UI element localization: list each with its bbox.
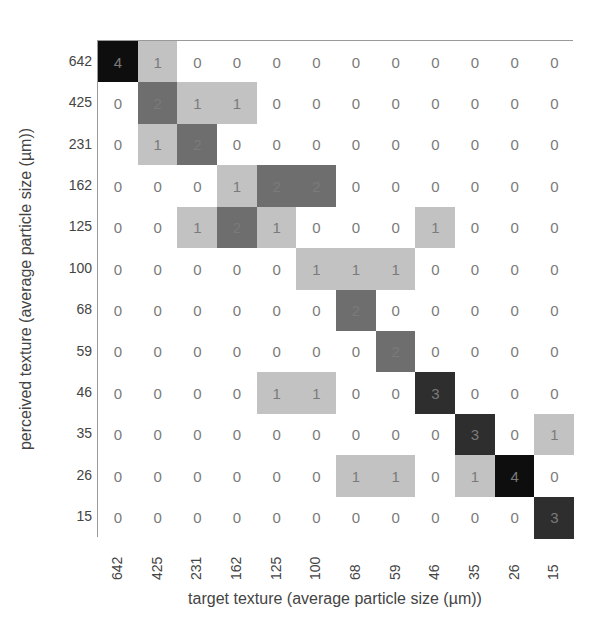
heatmap-cell: 0 bbox=[217, 41, 257, 83]
heatmap-cell: 0 bbox=[534, 248, 574, 290]
heatmap-cell: 0 bbox=[296, 82, 336, 124]
heatmap-cell: 0 bbox=[336, 331, 376, 373]
heatmap-cell: 0 bbox=[534, 455, 574, 497]
heatmap-cell: 0 bbox=[336, 414, 376, 456]
heatmap-cell: 0 bbox=[257, 331, 297, 373]
heatmap-cell: 0 bbox=[98, 165, 138, 207]
heatmap-cell: 0 bbox=[138, 455, 178, 497]
heatmap-cell: 0 bbox=[415, 82, 455, 124]
heatmap-cell: 0 bbox=[257, 248, 297, 290]
heatmap-cell: 0 bbox=[138, 414, 178, 456]
heatmap-cell: 0 bbox=[415, 165, 455, 207]
heatmap-cell: 0 bbox=[336, 165, 376, 207]
heatmap-cell: 0 bbox=[98, 124, 138, 166]
heatmap-cell: 0 bbox=[257, 124, 297, 166]
y-axis-label-text: perceived texture (average particle size… bbox=[17, 127, 35, 449]
y-tick-label: 162 bbox=[42, 177, 92, 193]
heatmap-cell: 2 bbox=[376, 331, 416, 373]
heatmap-cell: 0 bbox=[98, 455, 138, 497]
heatmap-cell: 0 bbox=[217, 497, 257, 539]
heatmap-cell: 0 bbox=[296, 290, 336, 332]
heatmap-cell: 0 bbox=[495, 331, 535, 373]
x-tick-label: 162 bbox=[228, 544, 244, 580]
heatmap-cell: 3 bbox=[415, 372, 455, 414]
heatmap-cell: 0 bbox=[455, 165, 495, 207]
x-tick-label: 100 bbox=[307, 544, 323, 580]
heatmap-cell: 0 bbox=[455, 331, 495, 373]
heatmap-cell: 0 bbox=[257, 41, 297, 83]
heatmap-cell: 0 bbox=[376, 207, 416, 249]
heatmap-cell: 1 bbox=[296, 248, 336, 290]
x-tick-label: 35 bbox=[466, 544, 482, 580]
heatmap-cell: 0 bbox=[296, 497, 336, 539]
heatmap-cell: 0 bbox=[415, 124, 455, 166]
heatmap-cell: 0 bbox=[495, 124, 535, 166]
heatmap-cell: 1 bbox=[415, 207, 455, 249]
heatmap-cell: 0 bbox=[455, 41, 495, 83]
heatmap-cell: 0 bbox=[296, 331, 336, 373]
heatmap-cell: 0 bbox=[455, 372, 495, 414]
heatmap-cell: 0 bbox=[376, 82, 416, 124]
x-tick-label: 59 bbox=[387, 544, 403, 580]
heatmap-cell: 1 bbox=[177, 207, 217, 249]
heatmap-cell: 0 bbox=[415, 455, 455, 497]
heatmap-cell: 0 bbox=[495, 248, 535, 290]
heatmap-cell: 0 bbox=[534, 207, 574, 249]
y-tick-label: 15 bbox=[42, 508, 92, 524]
heatmap-cell: 2 bbox=[257, 165, 297, 207]
heatmap-cell: 0 bbox=[336, 497, 376, 539]
heatmap-cell: 0 bbox=[495, 165, 535, 207]
y-tick-label: 68 bbox=[42, 301, 92, 317]
heatmap-cell: 2 bbox=[177, 124, 217, 166]
heatmap-cell: 0 bbox=[98, 414, 138, 456]
heatmap-cell: 0 bbox=[177, 331, 217, 373]
heatmap-cell: 0 bbox=[455, 290, 495, 332]
heatmap-cell: 0 bbox=[495, 82, 535, 124]
heatmap-cell: 1 bbox=[217, 165, 257, 207]
y-tick-label: 125 bbox=[42, 218, 92, 234]
heatmap-cell: 1 bbox=[376, 248, 416, 290]
y-tick-label: 46 bbox=[42, 384, 92, 400]
heatmap-cell: 0 bbox=[495, 207, 535, 249]
heatmap-cell: 0 bbox=[177, 414, 217, 456]
heatmap-cell: 1 bbox=[138, 124, 178, 166]
heatmap-cell: 2 bbox=[336, 290, 376, 332]
heatmap-cell: 0 bbox=[257, 82, 297, 124]
heatmap-cell: 0 bbox=[98, 82, 138, 124]
x-tick-label: 46 bbox=[426, 544, 442, 580]
heatmap-cell: 0 bbox=[534, 82, 574, 124]
heatmap-cell: 2 bbox=[296, 165, 336, 207]
heatmap-cell: 0 bbox=[455, 207, 495, 249]
heatmap-cell: 0 bbox=[376, 497, 416, 539]
heatmap-cell: 0 bbox=[336, 41, 376, 83]
heatmap-cell: 0 bbox=[217, 414, 257, 456]
x-tick-label: 15 bbox=[545, 544, 561, 580]
heatmap-cell: 0 bbox=[296, 414, 336, 456]
heatmap-cell: 0 bbox=[534, 331, 574, 373]
heatmap-cell: 0 bbox=[98, 372, 138, 414]
heatmap-cell: 0 bbox=[415, 41, 455, 83]
heatmap-cell: 0 bbox=[534, 124, 574, 166]
x-axis-ticks: 642425231162125100685946352615 bbox=[97, 544, 573, 584]
heatmap-cell: 0 bbox=[495, 41, 535, 83]
heatmap-cell: 0 bbox=[336, 207, 376, 249]
heatmap-cell: 1 bbox=[376, 455, 416, 497]
y-tick-label: 59 bbox=[42, 343, 92, 359]
heatmap-cell: 4 bbox=[495, 455, 535, 497]
heatmap-cell: 0 bbox=[296, 41, 336, 83]
heatmap-cell: 3 bbox=[534, 497, 574, 539]
y-axis-ticks: 642425231162125100685946352615 bbox=[40, 40, 92, 537]
heatmap-cell: 0 bbox=[177, 41, 217, 83]
heatmap-cell: 0 bbox=[376, 290, 416, 332]
y-tick-label: 100 bbox=[42, 260, 92, 276]
y-axis-label: perceived texture (average particle size… bbox=[14, 40, 38, 537]
heatmap-cell: 0 bbox=[177, 248, 217, 290]
heatmap-cell: 2 bbox=[138, 82, 178, 124]
heatmap-cell: 0 bbox=[415, 290, 455, 332]
heatmap-cell: 0 bbox=[455, 124, 495, 166]
heatmap-cell: 0 bbox=[177, 372, 217, 414]
heatmap-cell: 0 bbox=[217, 331, 257, 373]
heatmap-cell: 4 bbox=[98, 41, 138, 83]
confusion-matrix-heatmap: 4100000000000211000000000120000000000001… bbox=[97, 40, 573, 537]
heatmap-cell: 0 bbox=[376, 41, 416, 83]
